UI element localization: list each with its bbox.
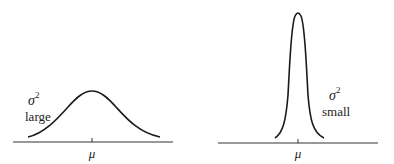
left-sigma-exponent: 2 [35,90,40,100]
right-panel: μ σ2 small [218,13,378,161]
left-panel: μ σ2 large [13,90,173,161]
variance-comparison-diagram: μ σ2 large μ σ2 small [0,0,394,164]
left-size-label: large [25,109,51,124]
left-mu-label: μ [88,146,96,161]
right-sigma-exponent: 2 [336,85,341,95]
right-sigma-squared-label: σ2 [329,85,340,103]
right-mu-label: μ [294,146,302,161]
left-sigma-squared-label: σ2 [28,90,39,108]
right-size-label: small [322,104,351,119]
right-narrow-bell-curve [275,13,324,138]
